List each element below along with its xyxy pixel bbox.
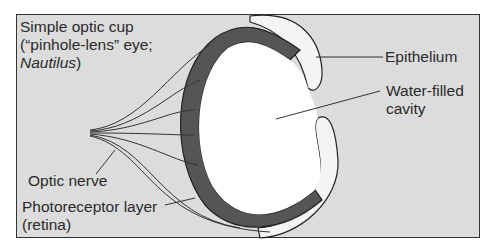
title-line-2: (“pinhole-lens” eye; — [20, 36, 153, 54]
label-epithelium: Epithelium — [385, 48, 457, 66]
label-water-filled-cavity: Water-filled cavity — [386, 82, 464, 118]
title-line-3: Nautilus) — [20, 54, 153, 72]
title-line-1: Simple optic cup — [20, 18, 153, 36]
label-photoreceptor-layer: Photoreceptor layer (retina) — [22, 198, 157, 234]
species-name: Nautilus — [20, 54, 76, 71]
figure-title: Simple optic cup (“pinhole-lens” eye; Na… — [20, 18, 153, 72]
label-optic-nerve: Optic nerve — [28, 172, 107, 190]
